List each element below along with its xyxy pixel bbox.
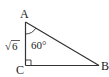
radical-sign: √ (5, 40, 12, 52)
vertex-label-b: B (101, 59, 109, 73)
angle-label-a: 60° (31, 39, 46, 51)
radicand: 6 (12, 40, 18, 52)
vertex-label-c: C (16, 63, 24, 77)
angle-arc-a (26, 28, 36, 34)
right-angle-marker (26, 60, 32, 66)
triangle-diagram: A C B 60° √ 6 (0, 0, 109, 77)
vertex-label-a: A (20, 7, 29, 21)
